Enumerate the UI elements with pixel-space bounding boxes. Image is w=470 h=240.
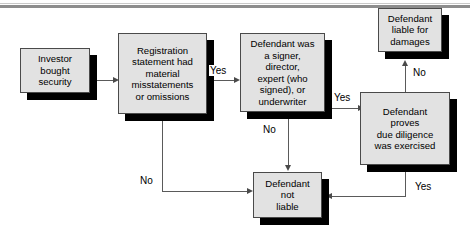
- node-defendant-proves-due-diligence: Defendant proves due diligence was exerc…: [360, 92, 450, 165]
- node-label-defendant-liable-for-damages: Defendant liable for damages: [379, 13, 441, 48]
- connector-signer-no-vertical: [288, 119, 289, 167]
- node-label-defendant-not-liable: Defendant not liable: [254, 178, 321, 213]
- node-label-defendant-was-signer: Defendant was a signer, director, expert…: [241, 38, 324, 107]
- node-defendant-liable-for-damages: Defendant liable for damages: [378, 8, 442, 52]
- edge-label-registration-yes: Yes: [209, 65, 227, 76]
- node-investor-bought-security: Investor bought security: [20, 48, 90, 93]
- connector-due-diligence-yes-horizontal: [330, 196, 406, 197]
- node-label-investor-bought-security: Investor bought security: [21, 53, 89, 88]
- edge-label-registration-no: No: [139, 175, 154, 186]
- edge-label-signer-yes: Yes: [333, 92, 351, 103]
- connector-registration-no-vertical: [162, 121, 163, 191]
- connector-due-diligence-yes-vertical: [405, 172, 406, 197]
- arrowhead-signer-no-to-not-liable: [285, 165, 291, 171]
- edge-label-due-diligence-no: No: [412, 67, 427, 78]
- figure-top-hairline: [0, 3, 470, 4]
- node-defendant-not-liable: Defendant not liable: [253, 172, 322, 218]
- node-label-defendant-proves-due-diligence: Defendant proves due diligence was exerc…: [361, 106, 449, 152]
- edge-label-due-diligence-yes: Yes: [414, 181, 432, 192]
- node-label-registration-statement: Registration statement had material miss…: [119, 45, 206, 103]
- connector-due-diligence-no-vertical: [405, 64, 406, 93]
- arrowhead-due-diligence-no-to-damages: [402, 60, 408, 66]
- node-defendant-was-signer: Defendant was a signer, director, expert…: [240, 33, 325, 112]
- edge-label-signer-no: No: [262, 124, 277, 135]
- connector-registration-no-horizontal: [162, 191, 249, 192]
- node-registration-statement-misstatements: Registration statement had material miss…: [118, 33, 207, 114]
- flowchart-canvas: Yes No Yes No No Yes Investor bought sec…: [0, 0, 470, 240]
